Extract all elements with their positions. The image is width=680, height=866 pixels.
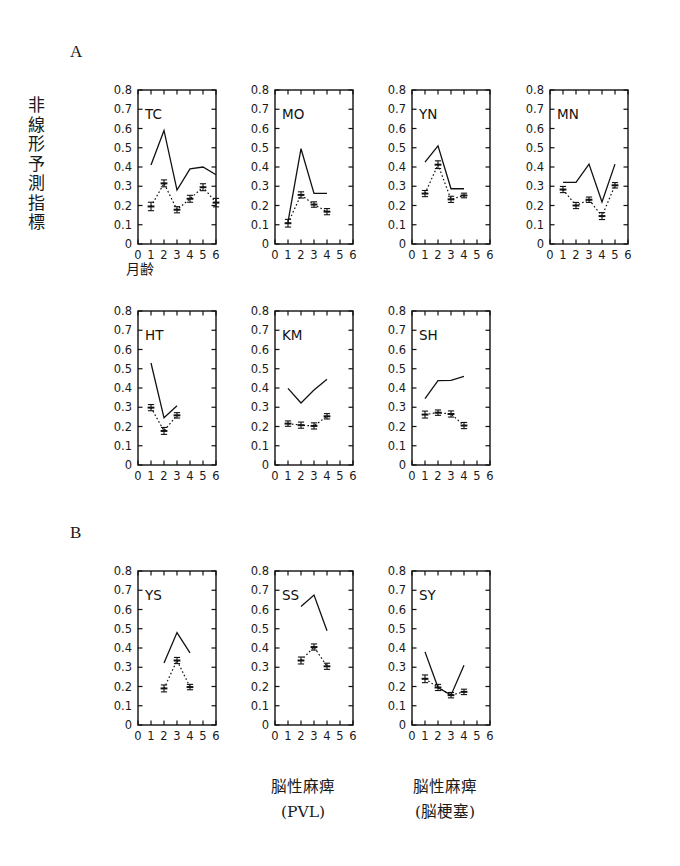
y-tick-label: 0.4 [251,160,269,174]
y-tick-label: 0.7 [114,323,132,337]
y-tick-label: 0 [399,718,406,732]
error-bar-marker [285,421,292,426]
error-bar-marker [298,422,305,428]
y-tick-label: 0.8 [114,305,132,318]
series-line-solid [288,379,327,403]
y-tick-label: 0 [125,237,132,251]
x-tick-label: 3 [173,248,180,262]
y-tick-label: 0.6 [114,122,132,136]
y-tick-label: 0.8 [388,305,406,318]
x-tick-label: 6 [486,729,493,743]
y-tick-label: 0.1 [114,439,132,453]
x-tick-label: 3 [173,729,180,743]
y-tick-label: 0.1 [114,218,132,232]
error-bar-marker [174,413,181,418]
y-tick-label: 0.3 [114,400,132,414]
y-tick-label: 0.5 [388,362,406,376]
series-line-solid [563,164,615,202]
y-tick-label: 0.4 [114,641,132,655]
x-tick-label: 1 [421,469,428,483]
error-bar-marker [148,405,155,411]
y-tick-label: 0.5 [388,622,406,636]
error-bar-marker [174,657,181,663]
y-tick-label: 0.2 [388,199,406,213]
panel-title: SH [419,327,438,343]
y-tick-label: 0.6 [251,343,269,357]
chart-panel-yn: 00.10.20.30.40.50.60.70.80123456YN [370,84,498,280]
y-tick-label: 0 [125,458,132,472]
x-tick-label: 1 [559,248,566,262]
chart-panel-sy: 00.10.20.30.40.50.60.70.80123456SY [370,565,498,761]
series-line-dotted [288,195,327,223]
y-tick-label: 0.4 [251,381,269,395]
y-tick-label: 0.6 [251,603,269,617]
x-tick-label: 5 [336,469,343,483]
y-tick-label: 0.4 [114,381,132,395]
x-tick-label: 1 [147,469,154,483]
y-axis-label-char: 線 [22,116,50,136]
y-tick-label: 0.3 [388,179,406,193]
caption-pvl-line1: 脳性麻痺 [233,775,373,800]
x-tick-label: 3 [447,469,454,483]
x-tick-label: 2 [434,248,441,262]
x-tick-label: 4 [323,469,330,483]
x-tick-label: 2 [434,729,441,743]
y-tick-label: 0.7 [114,102,132,116]
panel-title: TC [144,106,162,122]
y-tick-label: 0.1 [526,218,544,232]
y-tick-label: 0.2 [388,420,406,434]
y-tick-label: 0 [399,458,406,472]
y-tick-label: 0.8 [114,84,132,97]
y-tick-label: 0.3 [526,179,544,193]
y-tick-label: 0.7 [388,323,406,337]
x-tick-label: 1 [284,248,291,262]
y-tick-label: 0.3 [114,660,132,674]
y-tick-label: 0.7 [251,102,269,116]
y-tick-label: 0.2 [251,680,269,694]
caption-infarct-line1: 脳性麻痺 [370,775,520,800]
y-tick-label: 0.7 [251,323,269,337]
error-bar-marker [422,675,429,683]
y-axis-label: 非線形予測指標 [22,96,50,233]
y-tick-label: 0.1 [251,439,269,453]
x-tick-label: 6 [486,469,493,483]
y-tick-label: 0.7 [526,102,544,116]
error-bar-marker [161,180,168,187]
y-tick-label: 0.7 [251,583,269,597]
caption-infarct-line2: (脳梗塞) [370,800,520,825]
x-tick-label: 5 [336,248,343,262]
x-tick-label: 6 [212,729,219,743]
y-tick-label: 0.6 [526,122,544,136]
x-tick-label: 4 [323,248,330,262]
y-axis-label-char: 測 [22,174,50,194]
y-axis-label-char: 非 [22,96,50,116]
x-tick-label: 5 [473,469,480,483]
x-tick-label: 6 [349,248,356,262]
x-tick-label: 5 [336,729,343,743]
error-bar-marker [448,411,455,417]
y-tick-label: 0.4 [388,381,406,395]
y-axis-label-char: 標 [22,213,50,233]
series-line-solid [151,363,177,418]
y-tick-label: 0.4 [388,160,406,174]
x-tick-label: 0 [271,469,278,483]
series-line-solid [425,376,464,398]
y-tick-label: 0.4 [251,641,269,655]
y-tick-label: 0.3 [251,660,269,674]
x-tick-label: 4 [323,729,330,743]
y-tick-label: 0.6 [388,603,406,617]
series-line-solid [151,130,216,190]
error-bar-marker [187,195,194,202]
y-tick-label: 0.2 [388,680,406,694]
error-bar-marker [560,186,567,192]
y-tick-label: 0.6 [114,603,132,617]
panel-title: KM [282,327,303,343]
y-tick-label: 0.8 [114,565,132,578]
error-bar-marker [324,209,331,215]
y-tick-label: 0.5 [251,622,269,636]
x-tick-label: 3 [585,248,592,262]
chart-panel-sh: 00.10.20.30.40.50.60.70.80123456SH [370,305,498,501]
caption-pvl: 脳性麻痺 (PVL) [233,775,373,825]
caption-infarct: 脳性麻痺 (脳梗塞) [370,775,520,825]
series-line-dotted [425,165,464,200]
